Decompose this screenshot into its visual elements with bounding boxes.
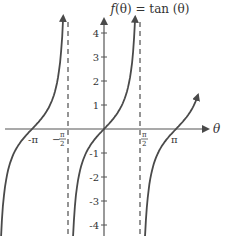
chart-title: f(θ) = tan (θ): [110, 2, 190, 16]
svg-text:2: 2: [60, 140, 64, 148]
svg-text:-π: -π: [28, 134, 38, 145]
svg-text:-1: -1: [89, 148, 99, 159]
svg-text:-2: -2: [89, 172, 99, 183]
svg-text:2: 2: [142, 140, 146, 148]
svg-text:π: π: [60, 131, 65, 139]
tan-branch-left: [1, 16, 63, 236]
svg-text:-4: -4: [89, 220, 99, 231]
x-axis-label: θ: [213, 122, 221, 136]
x-tick-labels: -π π − π 2 π 2: [28, 131, 178, 148]
tan-branch-right: [145, 95, 198, 236]
svg-text:2: 2: [93, 76, 99, 87]
svg-text:4: 4: [93, 28, 99, 39]
svg-text:-3: -3: [89, 196, 99, 207]
svg-text:π: π: [171, 134, 178, 145]
svg-text:1: 1: [93, 100, 99, 111]
svg-text:3: 3: [93, 52, 99, 63]
svg-text:π: π: [142, 131, 147, 139]
tangent-chart: f(θ) = tan (θ) θ 4 3 2 1 -1 -2 -3 -4 -π …: [0, 0, 225, 236]
